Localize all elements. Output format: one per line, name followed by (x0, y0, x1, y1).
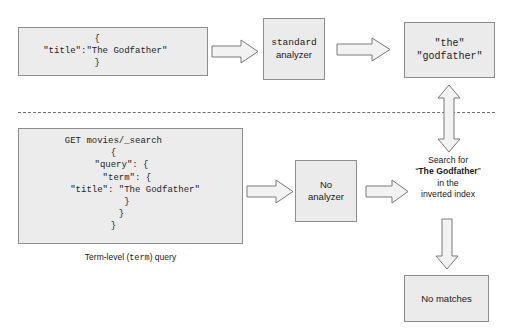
standard-analyzer-box: standard analyzer (263, 18, 325, 80)
caption-suffix: ) query (150, 252, 176, 262)
term-query-code: GET movies/_search { "query": { "term": … (19, 129, 200, 233)
caption-mono-term: term (129, 253, 149, 263)
token-the: "the" (434, 37, 464, 50)
standard-analyzer-line2: analyzer (276, 49, 312, 61)
search-for-text: Search for “The Godfather” in the invert… (396, 155, 500, 201)
no-analyzer-box: No analyzer (295, 160, 357, 222)
no-matches-label: No matches (421, 293, 472, 304)
arrow-query-to-no-analyzer (246, 179, 294, 204)
term-query-caption: Term-level (term) query (18, 252, 243, 263)
arrow-search-to-no-matches (434, 218, 460, 270)
caption-prefix: Term-level ( (85, 252, 129, 262)
no-analyzer-line2: analyzer (308, 191, 344, 203)
search-for-line4: inverted index (396, 189, 500, 200)
no-matches-box: No matches (404, 275, 489, 322)
section-divider (18, 112, 495, 113)
quote-close: ” (478, 166, 481, 176)
search-for-line1: Search for (396, 155, 500, 166)
search-for-line3: in the (396, 178, 500, 189)
diagram-canvas: { "title":"The Godfather" } standard ana… (0, 0, 507, 329)
no-analyzer-line1: No (320, 179, 332, 191)
search-term-value: The Godfather (418, 166, 477, 176)
arrow-tokens-to-search (436, 84, 462, 153)
token-godfather: "godfather" (416, 50, 482, 63)
arrow-analyzer-to-tokens (336, 37, 391, 62)
tokens-box: "the" "godfather" (404, 22, 495, 78)
arrow-doc-to-analyzer (211, 39, 259, 64)
document-json-box: { "title":"The Godfather" } (18, 27, 208, 76)
standard-analyzer-line1: standard (271, 37, 317, 49)
term-query-box: GET movies/_search { "query": { "term": … (18, 128, 243, 244)
search-for-line2: “The Godfather” (396, 166, 500, 177)
document-json-code: { "title":"The Godfather" } (19, 28, 167, 70)
